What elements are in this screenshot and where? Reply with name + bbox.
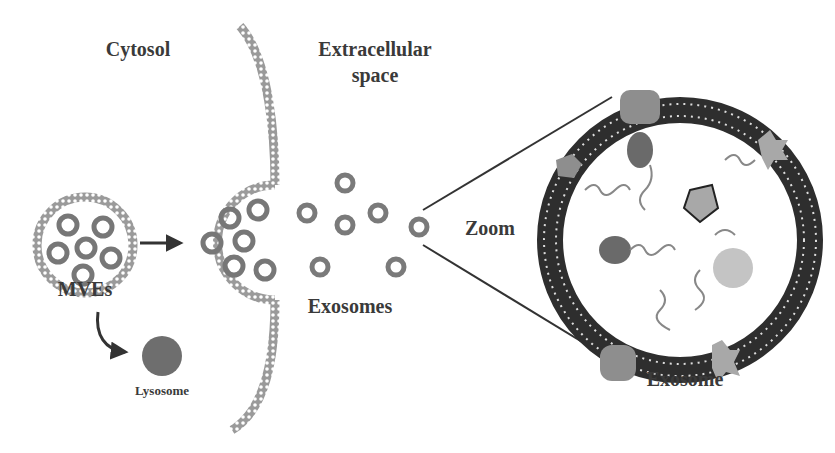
- exosome-zoom-icon: [544, 90, 816, 382]
- label-space: space: [290, 64, 460, 87]
- exosomes-icon: [299, 175, 427, 275]
- label-lysosome: Lysosome: [112, 383, 212, 399]
- fusing-mve-icon: [203, 185, 275, 300]
- label-exosomes: Exosomes: [295, 295, 405, 318]
- label-mves: MVEs: [40, 278, 130, 301]
- label-exosome: Exosome: [630, 368, 740, 391]
- label-extracellular: Extracellular: [290, 38, 460, 61]
- lysosome-icon: [142, 336, 182, 376]
- plasma-membrane-icon: [232, 26, 275, 430]
- degradation-arrow: [97, 312, 125, 352]
- label-cytosol: Cytosol: [88, 38, 188, 61]
- label-zoom: Zoom: [450, 217, 530, 240]
